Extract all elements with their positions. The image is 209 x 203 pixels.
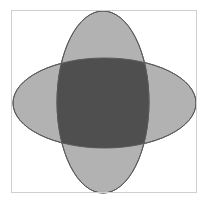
venn-diagram xyxy=(0,0,209,203)
figure-root xyxy=(0,0,209,203)
